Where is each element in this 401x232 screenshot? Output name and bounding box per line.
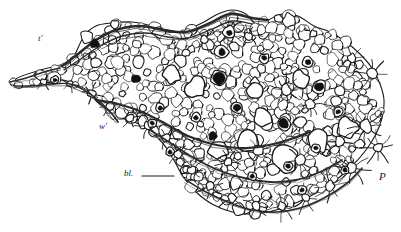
nucleus [227, 31, 232, 36]
cell [155, 83, 164, 91]
histological-figure: t'w'bl.P [0, 0, 401, 232]
label-t-prime: t' [38, 34, 42, 43]
nucleus [248, 172, 257, 181]
nucleus [210, 70, 227, 85]
cell [229, 42, 239, 51]
cell [280, 63, 287, 70]
nucleus-core [314, 146, 318, 150]
label-w-prime: w' [99, 122, 107, 131]
nucleus-core [168, 150, 172, 154]
nucleus-core [314, 83, 324, 91]
cell [331, 96, 342, 106]
stellate-body [126, 114, 134, 121]
cell [357, 95, 368, 105]
nucleus [341, 166, 349, 174]
nucleus [297, 186, 306, 195]
nucleus-core [227, 31, 232, 36]
nucleus [156, 103, 164, 112]
nucleus-core [300, 188, 304, 192]
stellate-body [206, 182, 214, 191]
nucleus-core [305, 60, 310, 65]
cell [342, 97, 348, 103]
nucleus-core [286, 164, 290, 168]
cell [102, 73, 112, 83]
cell [320, 46, 328, 54]
nucleus-core [279, 118, 288, 128]
cell [310, 30, 317, 37]
stellate-body [252, 201, 260, 210]
stellate-body [374, 144, 383, 152]
stellate-body [336, 136, 345, 147]
cell [330, 157, 336, 163]
stellate-body [278, 202, 286, 211]
nucleus [311, 144, 320, 153]
cell [238, 188, 249, 198]
cell [172, 111, 180, 117]
nucleus [148, 119, 157, 127]
stellate-process [195, 170, 202, 171]
cell [111, 21, 119, 29]
cell [261, 190, 271, 200]
nucleus-core [343, 168, 347, 173]
nucleus-core [53, 79, 57, 82]
cell [232, 66, 240, 72]
cell [182, 49, 190, 56]
cell [208, 112, 215, 119]
nucleus-core [262, 56, 267, 61]
cell [257, 64, 265, 73]
illustration-canvas [0, 0, 401, 232]
cell [313, 66, 320, 73]
cell [343, 77, 354, 90]
cell [260, 161, 268, 167]
label-p: P [379, 171, 386, 182]
cell [133, 40, 142, 48]
cell [335, 86, 345, 96]
label-bl: bl. [124, 169, 133, 178]
stellate-body [187, 166, 195, 174]
stellate-body [41, 79, 47, 85]
cell [359, 89, 366, 95]
cell [234, 152, 241, 160]
stellate-body [245, 32, 253, 40]
nucleus [259, 54, 268, 64]
nucleus-core [131, 75, 140, 82]
nucleus [191, 112, 201, 122]
nucleus [131, 75, 140, 82]
cell [143, 69, 151, 76]
cell [142, 80, 149, 87]
cell [123, 45, 129, 52]
nucleus [284, 162, 293, 171]
cell [133, 56, 144, 69]
cell [252, 180, 260, 190]
cell [275, 35, 282, 41]
